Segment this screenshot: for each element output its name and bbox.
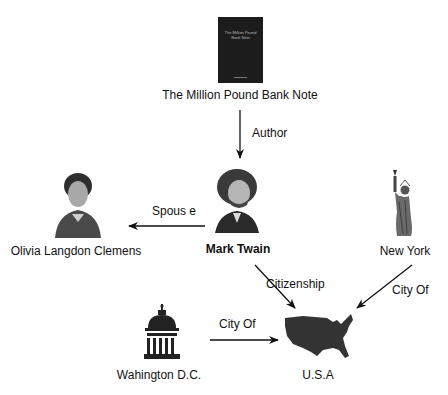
- portrait-mark-twain: [211, 167, 263, 233]
- portrait-olivia: [53, 170, 103, 238]
- node-label-mark-twain: Mark Twain: [206, 242, 270, 256]
- node-label-new-york: New York: [380, 244, 431, 258]
- node-label-olivia: Olivia Langdon Clemens: [11, 244, 142, 258]
- node-label-washington-dc: Wahington D.C.: [117, 368, 201, 382]
- edge-label-author: Author: [252, 126, 287, 140]
- edge-label-dc-city-of: City Of: [219, 317, 256, 331]
- usa-map-icon: [283, 312, 355, 362]
- book-cover-image: The Million Pound Bank Note: [218, 17, 263, 83]
- edge-label-ny-city-of: City Of: [392, 283, 429, 297]
- capitol-building-icon: [142, 304, 182, 360]
- statue-of-liberty-icon: [383, 168, 421, 238]
- book-cover-text: The Million Pound Bank Note: [222, 30, 259, 40]
- node-label-book: The Million Pound Bank Note: [162, 88, 317, 102]
- node-label-usa: U.S.A: [302, 368, 333, 382]
- edge-label-spouse: Spous e: [152, 204, 196, 218]
- edge-label-citizenship: Citizenship: [266, 277, 325, 291]
